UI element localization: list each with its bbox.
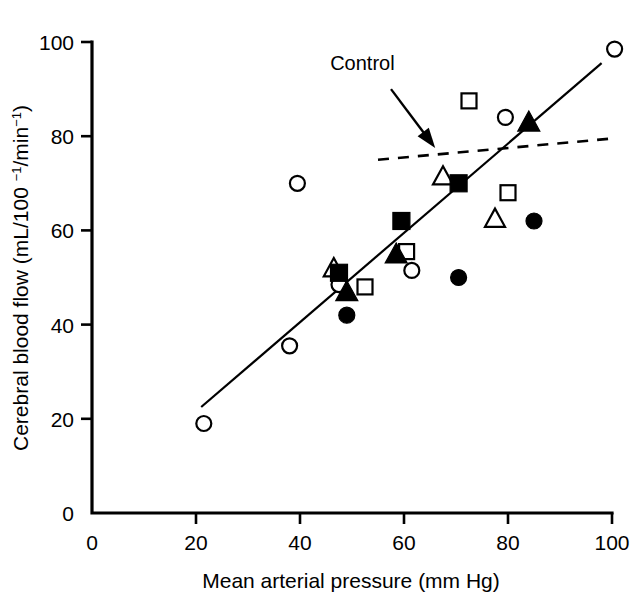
x-tick-label: 0 xyxy=(86,531,98,554)
control-annotation-label: Control xyxy=(330,52,394,74)
control-line-path xyxy=(378,139,612,160)
marker-filled-square xyxy=(450,175,467,192)
x-tick-label: 40 xyxy=(288,531,311,554)
marker-filled-square xyxy=(331,264,348,281)
marker-filled-triangle xyxy=(518,111,540,131)
y-axis-title: Cerebral blood flow (mL/100 −1/min−1) xyxy=(9,105,32,451)
marker-open-circle xyxy=(404,263,419,278)
marker-filled-circle xyxy=(339,307,355,323)
chart-canvas: 020406080100020406080100 Control Mean ar… xyxy=(0,0,642,597)
control-dashed-line xyxy=(378,139,612,160)
marker-open-square xyxy=(462,93,477,108)
regression-line-path xyxy=(201,63,601,407)
x-tick-label: 20 xyxy=(184,531,207,554)
x-tick-label: 80 xyxy=(496,531,519,554)
marker-open-triangle xyxy=(485,209,505,227)
marker-open-circle xyxy=(290,176,305,191)
marker-open-square xyxy=(358,279,373,294)
control-arrow-shaft xyxy=(391,89,427,137)
y-axis-title-superscript-2: −1 xyxy=(9,112,24,127)
y-tick-label: 80 xyxy=(51,125,74,148)
marker-filled-circle xyxy=(451,270,467,286)
y-tick-label: 60 xyxy=(51,219,74,242)
scatter-chart-figure: 020406080100020406080100 Control Mean ar… xyxy=(0,0,642,597)
y-axis-title-middle: /min xyxy=(9,127,32,167)
regression-line xyxy=(201,63,601,407)
marker-filled-circle xyxy=(526,213,542,229)
x-tick-label: 60 xyxy=(392,531,415,554)
x-tick-label: 100 xyxy=(594,531,629,554)
marker-open-circle xyxy=(282,338,297,353)
marker-open-circle xyxy=(498,110,513,125)
control-arrow-head xyxy=(418,128,436,148)
marker-open-circle xyxy=(607,42,622,57)
y-tick-label: 100 xyxy=(39,31,74,54)
marker-filled-square xyxy=(393,212,410,229)
y-tick-label: 0 xyxy=(62,502,74,525)
y-axis-title-suffix: ) xyxy=(9,105,32,112)
svg-text:Cerebral blood flow (mL/100 −1: Cerebral blood flow (mL/100 −1/min−1) xyxy=(9,105,32,451)
y-axis-title-prefix: Cerebral blood flow (mL/100 xyxy=(9,181,32,451)
marker-open-square xyxy=(501,185,516,200)
marker-open-circle xyxy=(196,416,211,431)
y-tick-label: 20 xyxy=(51,408,74,431)
control-annotation: Control xyxy=(330,52,435,148)
y-tick-label: 40 xyxy=(51,314,74,337)
x-axis-title: Mean arterial pressure (mm Hg) xyxy=(202,569,500,592)
y-axis-title-superscript-1: −1 xyxy=(9,167,24,182)
